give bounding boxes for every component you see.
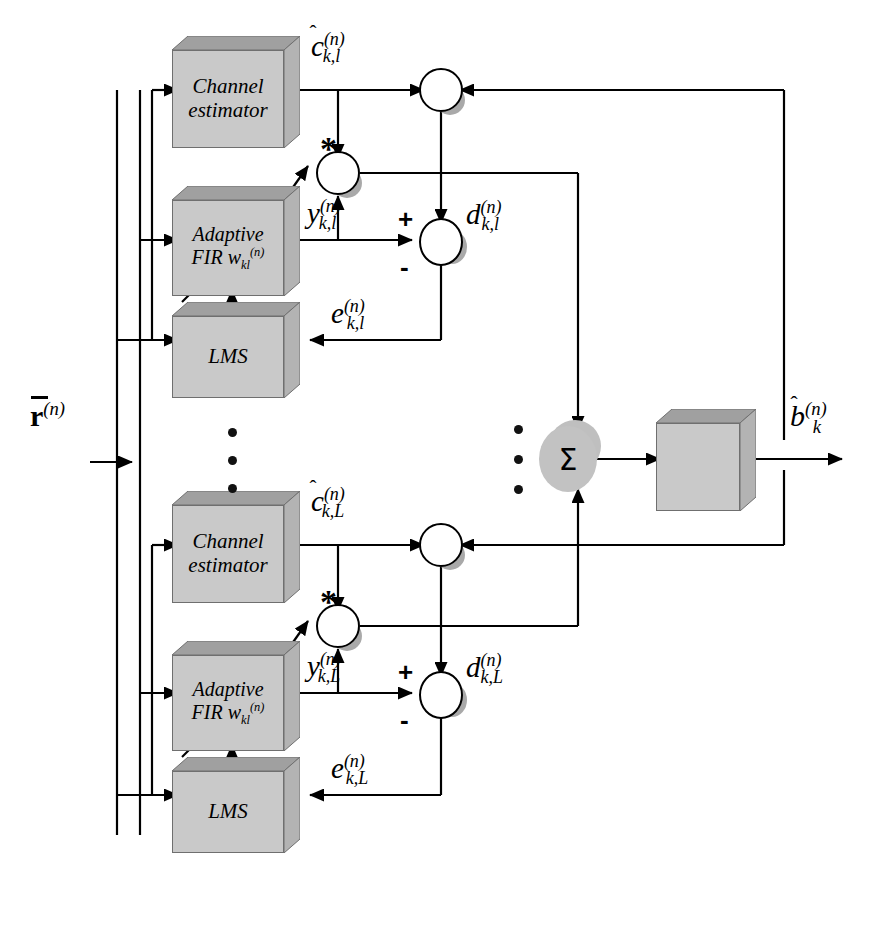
adder-plus-sign-l: + — [398, 204, 413, 235]
ce-base: c — [311, 485, 324, 517]
y-sub: k,l — [319, 213, 336, 233]
channel-estimator-block-L[interactable]: Channel estimator — [172, 491, 300, 603]
e-sub: k,L — [346, 768, 368, 788]
error-label-l: e(n)k,l — [331, 296, 364, 334]
d-sub: k,L — [480, 667, 502, 687]
adaptive-fir-line1: Adaptive — [192, 223, 263, 245]
adaptive-fir-line2: FIR w — [192, 701, 241, 723]
multiplier-node-bottom-despread[interactable] — [419, 523, 463, 567]
channel-estimate-label-l: ̂ c (n)k,l — [311, 29, 340, 67]
vertical-ellipsis-dot — [228, 456, 237, 465]
decision-input-label-L: d(n)k,L — [466, 650, 503, 688]
fir-output-label-L: y(n)k,L — [307, 649, 340, 687]
vertical-ellipsis-dot — [228, 484, 237, 493]
vertical-ellipsis-dot — [228, 428, 237, 437]
block-diagram-canvas: Σ Channel estimator Adaptive FIR wkl(n) — [0, 0, 872, 925]
adder-minus-sign-L: - — [400, 705, 409, 736]
input-signal-base: r — [30, 399, 43, 432]
ce-base: c — [311, 30, 324, 62]
adder-plus-sign-L: + — [398, 657, 413, 688]
lms-label: LMS — [208, 344, 248, 368]
fir-output-label-l: y(n)k,l — [307, 196, 336, 234]
adaptive-fir-sup: (n) — [250, 245, 264, 259]
adaptive-fir-sup: (n) — [250, 700, 264, 714]
adaptive-fir-sub: kl — [241, 713, 250, 727]
adaptive-fir-line2: FIR w — [192, 246, 241, 268]
d-base: d — [466, 198, 481, 230]
y-sub: k,L — [318, 666, 340, 686]
adder-minus-sign-l: - — [400, 252, 409, 283]
lms-label: LMS — [208, 799, 248, 823]
conjugate-symbol-l: * — [320, 130, 337, 168]
channel-estimator-line1: Channel — [192, 74, 263, 98]
combiner-ellipsis-dot — [514, 485, 523, 494]
ce-sub: k,l — [323, 46, 340, 66]
channel-estimator-line2: estimator — [188, 98, 267, 122]
decision-input-label-l: d(n)k,l — [466, 197, 499, 235]
summation-node[interactable]: Σ — [539, 426, 597, 492]
combiner-ellipsis-dot — [514, 425, 523, 434]
e-sub: k,l — [347, 313, 364, 333]
d-base: d — [466, 651, 481, 683]
error-label-L: e(n)k,L — [331, 751, 368, 789]
combiner-ellipsis-dot — [514, 455, 523, 464]
decision-device-block[interactable] — [656, 409, 756, 511]
adder-node-top[interactable] — [419, 218, 463, 266]
output-signal-label: ̂ b (n)k — [790, 398, 821, 438]
input-signal-label: r (n) — [30, 398, 65, 433]
e-base: e — [331, 297, 344, 329]
output-signal-base: b — [790, 399, 805, 432]
y-base: y — [307, 197, 320, 229]
output-signal-sub: k — [813, 416, 821, 437]
channel-estimator-line2: estimator — [188, 553, 267, 577]
lms-block-l[interactable]: LMS — [172, 302, 300, 398]
adder-node-bottom[interactable] — [419, 671, 463, 719]
adaptive-fir-block-l[interactable]: Adaptive FIR wkl(n) — [172, 186, 300, 296]
multiplier-node-top-despread[interactable] — [419, 68, 463, 112]
conjugate-symbol-L: * — [320, 583, 337, 621]
summation-symbol: Σ — [559, 442, 578, 477]
d-sub: k,l — [481, 214, 498, 234]
ce-sub: k,L — [322, 501, 344, 521]
adaptive-fir-sub: kl — [241, 258, 250, 272]
channel-estimate-label-L: ̂ c (n)k,L — [311, 484, 344, 522]
channel-estimator-line1: Channel — [192, 529, 263, 553]
adaptive-fir-block-L[interactable]: Adaptive FIR wkl(n) — [172, 641, 300, 751]
lms-block-L[interactable]: LMS — [172, 757, 300, 853]
adaptive-fir-line1: Adaptive — [192, 678, 263, 700]
channel-estimator-block-l[interactable]: Channel estimator — [172, 36, 300, 148]
input-signal-sup: (n) — [43, 398, 65, 419]
e-base: e — [331, 752, 344, 784]
